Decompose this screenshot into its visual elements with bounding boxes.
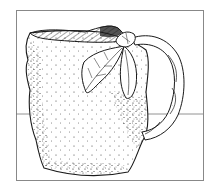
illustration-canvas: Pen-and-ink illustration of a textured c… xyxy=(0,0,218,193)
pitcher-illustration xyxy=(0,0,218,193)
